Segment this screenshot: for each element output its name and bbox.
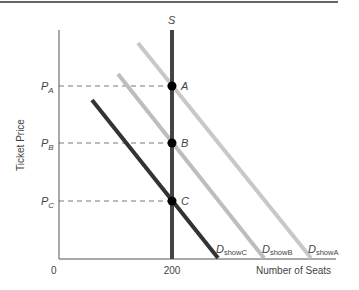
demand-show-a-line bbox=[138, 43, 311, 258]
origin-label: 0 bbox=[51, 265, 57, 276]
demand-show-a-label: DshowA bbox=[308, 243, 338, 257]
demand-show-b-label: DshowB bbox=[262, 243, 292, 257]
equilibrium-c-dot bbox=[168, 197, 177, 206]
x-axis-label: Number of Seats bbox=[256, 265, 331, 276]
equilibrium-b-dot bbox=[168, 139, 177, 148]
point-c-label: C bbox=[181, 195, 189, 207]
y-axis-label: Ticket Price bbox=[15, 119, 26, 171]
equilibrium-a-dot bbox=[168, 82, 177, 91]
price-a-label: PA bbox=[41, 80, 54, 95]
price-b-label: PB bbox=[41, 137, 54, 152]
point-a-label: A bbox=[180, 80, 188, 92]
price-c-label: PC bbox=[41, 195, 54, 210]
supply-label: S bbox=[168, 14, 176, 26]
demand-show-c-label: DshowC bbox=[216, 243, 247, 257]
demand-show-b-line bbox=[118, 74, 264, 258]
x-tick-200: 200 bbox=[164, 265, 181, 276]
supply-demand-chart: S A B C PA PB PC Ticket Price 0 200 Numb… bbox=[0, 0, 359, 290]
point-b-label: B bbox=[181, 137, 188, 149]
